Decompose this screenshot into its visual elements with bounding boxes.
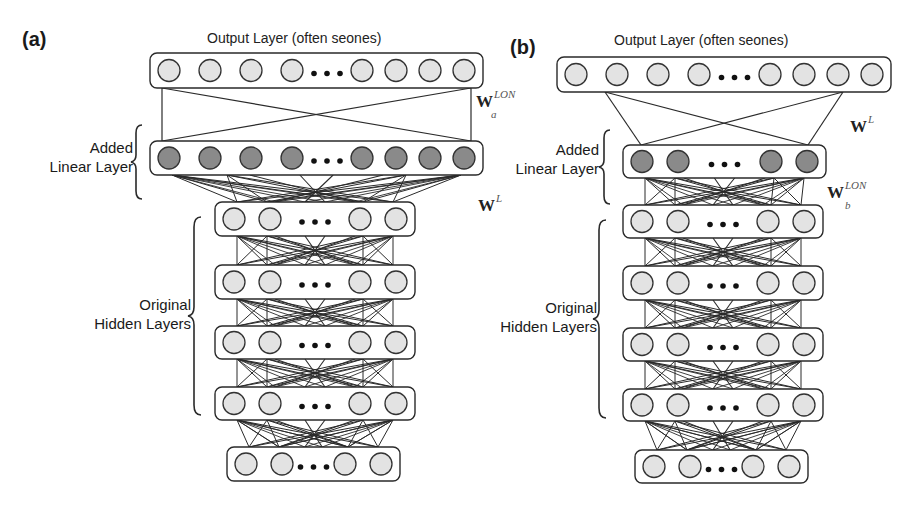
connection-line <box>172 175 275 202</box>
neuron-node <box>793 334 815 356</box>
output-layer-title-b: Output Layer (often seones) <box>614 32 788 48</box>
neuron-node <box>385 332 407 354</box>
added-linear-label-b: Added Linear Layer <box>516 140 599 178</box>
hidden-layer-3-a <box>215 326 415 359</box>
neuron-node <box>281 147 303 169</box>
neuron-node <box>199 147 221 169</box>
added-label-line1: Added <box>50 138 133 157</box>
neuron-node <box>385 393 407 415</box>
neuron-node <box>419 60 441 82</box>
input-layer-a <box>227 447 400 481</box>
neuron-node <box>778 456 800 478</box>
hidden-layer-2-a <box>215 265 415 299</box>
neuron-node <box>259 271 281 293</box>
ellipsis-dot <box>337 71 343 77</box>
neuron-node <box>223 332 245 354</box>
ellipsis-dot <box>299 343 305 349</box>
neuron-node <box>667 151 689 173</box>
added-linear-layer-a <box>150 141 483 175</box>
neuron-node <box>631 151 653 173</box>
neuron-node <box>385 208 407 230</box>
neuron-node <box>688 64 710 86</box>
neuron-node <box>742 456 764 478</box>
neuron-node <box>453 60 475 82</box>
neuron-node <box>796 151 818 173</box>
ellipsis-dot <box>733 283 739 289</box>
ellipsis-dot <box>337 158 343 164</box>
neuron-node <box>349 332 371 354</box>
weight-sup: L <box>496 192 502 204</box>
added-label-line2: Linear Layer <box>516 159 599 178</box>
neuron-node <box>667 211 689 233</box>
neuron-node <box>667 334 689 356</box>
neuron-node <box>235 453 257 475</box>
weight-sup: LON <box>494 88 515 100</box>
neuron-node <box>223 208 245 230</box>
neuron-node <box>385 271 407 293</box>
ellipsis-dot <box>733 222 739 228</box>
neuron-node <box>259 208 281 230</box>
ellipsis-dot <box>324 71 330 77</box>
neuron-node <box>223 393 245 415</box>
connection-line <box>771 178 774 205</box>
hidden-layers-label-a: Original Hidden Layers <box>94 295 191 333</box>
neuron-node <box>631 394 653 416</box>
weight-base: W <box>850 117 867 136</box>
neuron-node <box>453 147 475 169</box>
ellipsis-dot <box>299 282 305 288</box>
added-label-line1: Added <box>516 140 599 159</box>
neuron-node <box>351 147 373 169</box>
weight-label-w-b-lon: WLON b <box>827 183 866 203</box>
neuron-node <box>793 394 815 416</box>
weight-sub: a <box>491 108 497 120</box>
layers-panel-b <box>557 57 891 483</box>
hidden-layer-4-a <box>215 387 415 420</box>
hidden-label-line2: Hidden Layers <box>500 317 597 336</box>
neuron-node <box>793 272 815 294</box>
neuron-node <box>759 64 781 86</box>
ellipsis-dot <box>745 75 751 81</box>
input-layer-b <box>635 450 808 483</box>
ellipsis-dot <box>706 467 712 473</box>
ellipsis-dot <box>312 219 318 225</box>
ellipsis-dot <box>707 405 713 411</box>
output-layer-title-a: Output Layer (often seones) <box>207 30 381 46</box>
ellipsis-dot <box>732 467 738 473</box>
hidden-label-line2: Hidden Layers <box>94 314 191 333</box>
neuron-node <box>760 151 782 173</box>
diagram-canvas <box>0 0 915 505</box>
neuron-node <box>199 60 221 82</box>
neuron-node <box>334 453 356 475</box>
neuron-node <box>757 272 779 294</box>
neuron-node <box>757 394 779 416</box>
weight-label-w-l-a: WL <box>478 196 502 216</box>
added-linear-layer-b <box>623 145 826 178</box>
ellipsis-dot <box>299 219 305 225</box>
neuron-node <box>158 60 180 82</box>
added-linear-label-a: Added Linear Layer <box>50 138 133 176</box>
hidden-label-line1: Original <box>500 298 597 317</box>
ellipsis-dot <box>325 282 331 288</box>
neuron-node <box>349 271 371 293</box>
ellipsis-dot <box>312 282 318 288</box>
neuron-node <box>827 64 849 86</box>
hidden-layer-1-b <box>623 205 823 238</box>
hidden-layer-2-b <box>623 266 823 300</box>
ellipsis-dot <box>324 464 330 470</box>
neuron-node <box>606 64 628 86</box>
ellipsis-dot <box>311 158 317 164</box>
weight-base: W <box>478 196 495 215</box>
ellipsis-dot <box>733 345 739 351</box>
neuron-node <box>281 60 303 82</box>
ellipsis-dot <box>719 467 725 473</box>
ellipsis-dot <box>733 405 739 411</box>
neuron-node <box>349 208 371 230</box>
neuron-node <box>793 211 815 233</box>
panel-tag-a: (a) <box>22 28 46 51</box>
ellipsis-dot <box>312 343 318 349</box>
ellipsis-dot <box>709 162 715 168</box>
neuron-node <box>793 64 815 86</box>
neuron-node <box>385 60 407 82</box>
brace-added-linear-b <box>599 130 610 204</box>
ellipsis-dot <box>707 222 713 228</box>
